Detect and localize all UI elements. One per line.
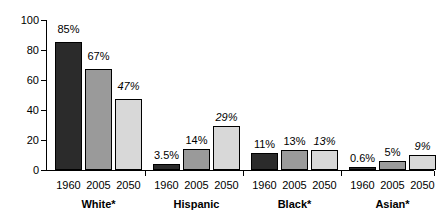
bar-asian-2050	[409, 155, 436, 170]
y-axis-label-20: 20	[3, 135, 39, 146]
bar-hispanic-2050	[213, 126, 240, 170]
x-axis-separator-4	[434, 171, 435, 176]
x-axis-separator-3	[341, 171, 342, 176]
x-axis-separator-2	[243, 171, 244, 176]
x-axis-year-asian-2050: 2050	[402, 180, 442, 191]
bar-hispanic-1960	[153, 164, 180, 170]
x-axis-line	[46, 170, 434, 171]
bar-black-1960	[251, 153, 278, 170]
y-axis-label-40: 40	[3, 105, 39, 116]
bar-value-asian-2050: 9%	[402, 141, 442, 152]
x-axis-year-white-2050: 2050	[108, 180, 149, 191]
bar-value-black-2050: 13%	[304, 136, 345, 147]
bar-value-hispanic-2050: 29%	[206, 112, 247, 123]
bar-value-white-2050: 47%	[108, 81, 149, 92]
x-axis-group-label-hispanic: Hispanic	[154, 199, 239, 210]
x-axis-group-label-asian: Asian*	[350, 199, 435, 210]
y-axis-tick-80	[41, 50, 46, 51]
y-axis-tick-20	[41, 140, 46, 141]
x-axis-separator-1	[145, 171, 146, 176]
x-axis-year-black-2050: 2050	[304, 180, 345, 191]
y-axis-tick-100	[41, 20, 46, 21]
y-axis-label-0: 0	[3, 165, 39, 176]
y-axis-label-100: 100	[3, 15, 39, 26]
x-axis-year-hispanic-2050: 2050	[206, 180, 247, 191]
y-axis-label-60: 60	[3, 75, 39, 86]
x-axis-group-label-white: White*	[56, 199, 141, 210]
bar-value-white-1960: 85%	[48, 24, 89, 35]
bar-chart: 100 80 60 40 20 0 85% 67% 47% 1960 2005 …	[0, 0, 442, 218]
bar-asian-2005	[379, 161, 406, 170]
bar-white-2050	[115, 99, 142, 170]
bar-value-white-2005: 67%	[78, 51, 119, 62]
bar-black-2005	[281, 150, 308, 170]
y-axis-line	[46, 20, 47, 170]
bar-asian-1960	[349, 167, 376, 170]
bar-value-hispanic-2005: 14%	[176, 135, 217, 146]
bar-black-2050	[311, 150, 338, 170]
y-axis-tick-40	[41, 110, 46, 111]
bar-hispanic-2005	[183, 149, 210, 170]
x-axis-group-label-black: Black*	[252, 199, 337, 210]
y-axis-label-80: 80	[3, 45, 39, 56]
y-axis-tick-60	[41, 80, 46, 81]
